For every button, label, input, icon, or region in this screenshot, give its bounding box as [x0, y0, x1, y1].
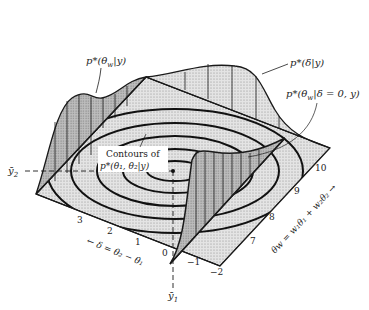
marginal-delta-label: p*(δ|y) [290, 57, 324, 69]
svg-text:9: 9 [294, 186, 300, 196]
svg-text:Contours of: Contours of [106, 149, 160, 159]
svg-text:7: 7 [250, 236, 256, 246]
svg-text:p*(θ₁, θ₂|y): p*(θ₁, θ₂|y) [100, 161, 150, 172]
svg-text:−1: −1 [187, 257, 200, 267]
svg-text:10: 10 [315, 163, 327, 173]
svg-text:−2: −2 [210, 267, 223, 277]
svg-text:2: 2 [107, 226, 113, 236]
svg-text:1: 1 [135, 237, 141, 247]
posterior-mode-point [171, 169, 175, 173]
svg-text:3: 3 [77, 215, 83, 225]
bivariate-posterior-diagram: ↑ θ2 θ1 → [0, 0, 369, 310]
svg-text:8: 8 [269, 212, 275, 222]
svg-text:0: 0 [162, 248, 168, 258]
